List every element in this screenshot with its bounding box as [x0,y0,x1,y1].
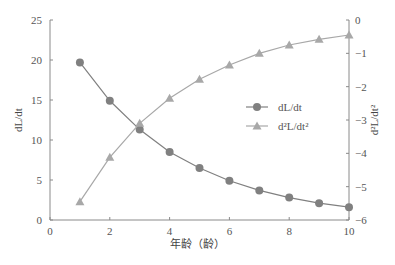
series-line [80,62,349,207]
x-axis-title: 年龄（龄） [170,237,225,250]
left-y-tick-label: 25 [31,14,43,26]
series-layer [75,31,353,212]
left-y-tick-label: 10 [31,134,43,146]
legend-label-d2Ldt2: d²L/dt² [278,120,309,132]
x-tick-label: 0 [47,225,53,237]
right-y-tick-label: −2 [355,81,367,93]
left-y-tick-label: 15 [31,94,43,106]
left-y-tick-label: 20 [31,54,43,66]
left-y-axis-title: dL/dt [12,108,24,132]
series-line [80,35,349,202]
data-point-circle [106,97,114,105]
data-point-circle [345,203,353,211]
right-y-tick-label: 0 [355,14,361,26]
data-point-circle [196,164,204,172]
right-y-tick-label: −3 [355,114,367,126]
data-point-triangle [195,75,204,83]
data-point-circle [285,194,293,202]
right-y-tick-label: −5 [355,181,367,193]
x-tick-label: 10 [344,225,356,237]
data-point-triangle [75,197,84,205]
x-tick-label: 6 [227,225,233,237]
data-point-circle [255,186,263,194]
data-point-triangle [345,31,354,39]
data-point-circle [315,199,323,207]
legend: dL/dt d²L/dt² [246,101,309,132]
left-y-tick-label: 5 [37,174,43,186]
legend-label-dLdt: dL/dt [278,101,302,113]
dual-axis-line-chart: 05101520250−1−2−3−4−5−60246810 dL/dt d²L… [0,0,395,265]
right-y-axis-title: d²L/dt² [368,104,380,135]
x-tick-label: 2 [107,225,113,237]
legend-circle-icon [253,103,261,111]
data-point-circle [225,177,233,185]
right-y-tick-label: −6 [355,214,367,226]
x-tick-label: 8 [286,225,292,237]
data-point-triangle [225,61,234,69]
right-y-tick-label: −4 [355,147,367,159]
data-point-triangle [165,94,174,102]
data-point-circle [76,58,84,66]
left-y-tick-label: 0 [37,214,43,226]
x-tick-label: 4 [167,225,173,237]
data-point-circle [166,148,174,156]
right-y-tick-label: −1 [355,47,367,59]
